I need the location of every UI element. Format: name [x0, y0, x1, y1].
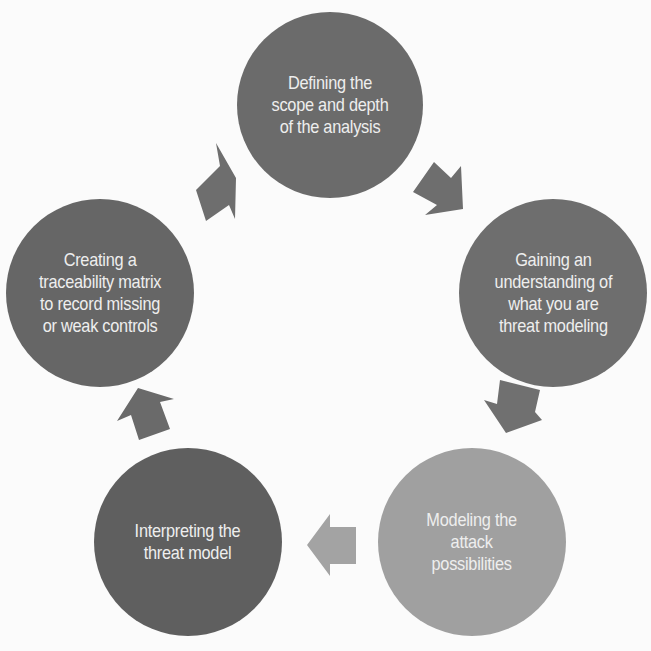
step-define-scope-label: Defining the scope and depth of the anal…: [272, 72, 389, 138]
step-define-scope-node: Defining the scope and depth of the anal…: [237, 12, 423, 198]
arrow-up-right-icon: [196, 143, 236, 221]
step-model-attacks-label: Modeling the attack possibilities: [427, 509, 517, 575]
threat-modeling-cycle-diagram: Defining the scope and depth of the anal…: [0, 0, 651, 651]
step-interpret-model-label: Interpreting the threat model: [135, 520, 241, 564]
step-model-attacks-node: Modeling the attack possibilities: [378, 448, 566, 636]
arrow-down-icon: [484, 380, 542, 433]
step-gain-understanding-label: Gaining an understanding of what you are…: [494, 249, 612, 337]
arrow-up-icon: [117, 388, 174, 440]
step-traceability-matrix-label: Creating a traceability matrix to record…: [39, 249, 161, 337]
arrow-left-icon: [307, 514, 356, 576]
step-interpret-model-node: Interpreting the threat model: [94, 448, 282, 636]
arrow-down-right-icon: [413, 162, 463, 215]
step-traceability-matrix-node: Creating a traceability matrix to record…: [6, 199, 194, 387]
step-gain-understanding-node: Gaining an understanding of what you are…: [459, 199, 647, 387]
